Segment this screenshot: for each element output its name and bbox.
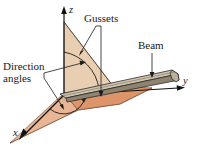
gussets-leader-line-1 [81, 26, 96, 52]
vertical-gusset-surface [64, 22, 113, 93]
direction-angles-label-line1: Direction [3, 60, 45, 72]
z-axis-arrowhead [61, 6, 67, 14]
beam-label: Beam [138, 39, 164, 51]
engineering-diagram: Gussets Beam Direction angles [0, 0, 200, 152]
x-axis-label: x [12, 127, 18, 138]
y-axis-arrowhead [177, 85, 185, 91]
gussets-label: Gussets [84, 12, 118, 24]
z-axis-label: z [68, 4, 73, 15]
direction-angles-leader-line-2 [44, 78, 62, 106]
y-axis-label: y [182, 75, 188, 86]
vertical-gusset-plate [64, 22, 113, 93]
figure-container: Gussets Beam Direction angles [0, 0, 200, 152]
direction-angles-label-line2: angles [3, 72, 31, 84]
